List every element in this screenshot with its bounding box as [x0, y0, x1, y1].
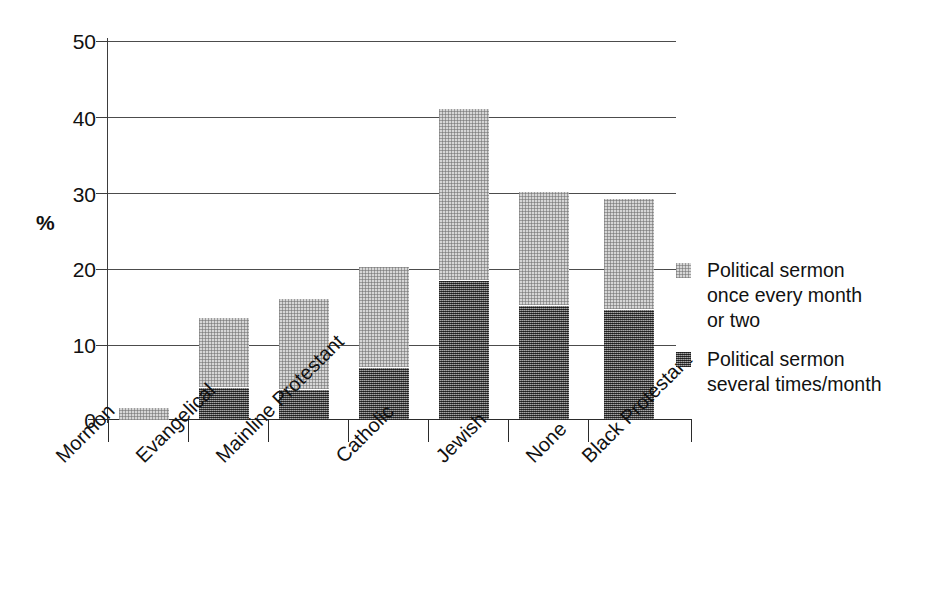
- y-tick-label-20: 20: [0, 259, 96, 280]
- stacked-bar-chart: % 50 40 30 20 10 0: [0, 0, 934, 605]
- y-tick-label-50: 50: [0, 31, 96, 52]
- x-tick-mark-5: [508, 420, 509, 442]
- bar-segment-light: [199, 318, 249, 387]
- bar-segment-light: [604, 199, 654, 309]
- legend-swatch-dark: [676, 352, 691, 367]
- legend-item-several-times-per-month: Political sermon several times/month: [676, 347, 926, 397]
- bar-segment-light: [439, 109, 489, 280]
- bar-segment-light: [359, 267, 409, 367]
- bar-segment-dark: [519, 306, 569, 420]
- gridline-40: [108, 117, 676, 118]
- legend-swatch-light: [676, 263, 691, 278]
- bar-segment-light: [119, 408, 169, 420]
- x-tick-mark-end: [691, 420, 692, 442]
- legend-item-once-every-month-or-two: Political sermon once every month or two: [676, 258, 926, 333]
- y-tick-label-30: 30: [0, 184, 96, 205]
- y-tick-label-10: 10: [0, 335, 96, 356]
- legend-label: Political sermon once every month or two: [707, 258, 926, 333]
- y-tick-label-40: 40: [0, 108, 96, 129]
- plot-area: [108, 41, 676, 420]
- x-axis-label-none: None: [522, 418, 570, 466]
- gridline-50: [108, 41, 676, 42]
- bar-segment-dark: [439, 281, 489, 420]
- gridline-30: [108, 193, 676, 194]
- x-tick-mark-4: [428, 420, 429, 442]
- y-axis-label: %: [36, 211, 55, 235]
- legend-label: Political sermon several times/month: [707, 347, 926, 397]
- chart-legend: Political sermon once every month or two…: [676, 258, 926, 411]
- bar-segment-light: [519, 192, 569, 305]
